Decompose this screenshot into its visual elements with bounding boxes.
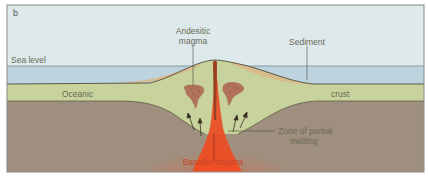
zone-partial-melting-label-2: melting <box>290 136 318 146</box>
andesitic-magma-label-1: Andesitic <box>176 26 211 36</box>
andesitic-magma-label-2: magma <box>179 36 208 46</box>
subduction-volcano-diagram: b Sea level Andesitic magma Sediment Oce… <box>0 0 428 178</box>
panel-label: b <box>13 8 18 18</box>
oceanic-label: Oceanic <box>62 89 94 99</box>
sediment-label: Sediment <box>289 37 326 47</box>
sea-level-label: Sea level <box>11 55 46 65</box>
crust-label: crust <box>331 89 350 99</box>
zone-partial-melting-label-1: Zone of partial <box>278 126 332 136</box>
basaltic-magma-label: Basaltic magma <box>183 157 244 167</box>
